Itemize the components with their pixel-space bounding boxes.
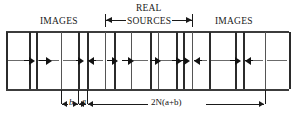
dimension-rule-total-left — [88, 104, 148, 105]
interface-line — [265, 32, 266, 89]
interface-line — [61, 32, 62, 89]
interface-line — [192, 32, 193, 89]
dimension-arrowhead-right — [259, 101, 264, 107]
ray-arrowhead-right — [155, 57, 161, 65]
label-images-right: IMAGES — [215, 16, 253, 26]
label-real: REAL — [136, 3, 162, 13]
real-sources-arrowhead-right — [186, 17, 192, 23]
dimension-label-a: a — [82, 97, 86, 106]
ray-arrowhead-left — [194, 57, 200, 65]
interface-line — [289, 32, 291, 89]
dimension-label-total: 2N(a+b) — [151, 97, 182, 107]
slab-top-boundary — [6, 31, 289, 33]
real-sources-arrowhead-left — [106, 17, 112, 23]
optics-slab-figure: IMAGES REAL SOURCES IMAGES — [0, 0, 295, 120]
axis-dash-segment — [267, 60, 287, 61]
real-sources-bracket-right-tick — [192, 14, 193, 27]
label-images-left: IMAGES — [40, 16, 78, 26]
ray-arrowhead-right — [78, 57, 84, 65]
dimension-arrowhead-right — [73, 101, 78, 107]
ray-arrowhead-right — [29, 57, 35, 65]
slab-bottom-boundary — [6, 89, 289, 91]
interface-line — [105, 32, 106, 89]
dimension-rule-total-right — [206, 104, 264, 105]
ray-arrowhead-right — [184, 57, 190, 65]
ray-arrowhead-right — [235, 57, 241, 65]
ray-arrowhead-left — [245, 57, 251, 65]
label-sources: SOURCES — [127, 16, 171, 26]
ray-arrowhead-right — [128, 57, 134, 65]
dimension-tick — [265, 90, 266, 104]
ray-arrowhead-right — [46, 57, 52, 65]
axis-dash-segment — [63, 60, 76, 61]
dimension-arrowhead-left — [62, 101, 67, 107]
axis-dash-segment — [133, 60, 148, 61]
ray-arrowhead-left — [88, 57, 94, 65]
ray-arrowhead-right — [112, 57, 118, 65]
